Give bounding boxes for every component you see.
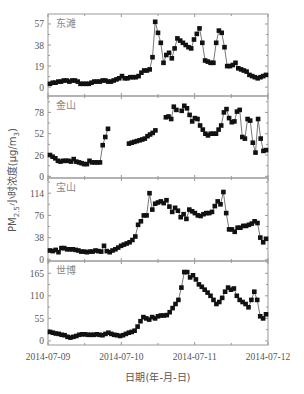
data-point-marker (176, 298, 181, 303)
x-axis-title: 日期(年-月-日) (125, 371, 190, 383)
data-point-marker (211, 61, 216, 66)
x-tick-label: 2014-07-11 (173, 352, 217, 362)
data-point-marker (252, 289, 257, 294)
y-tick-label: 0 (39, 172, 44, 182)
x-axis: 2014-07-092014-07-102014-07-112014-07-12 (26, 352, 291, 362)
data-point-marker (235, 294, 240, 299)
data-point-marker (176, 208, 181, 213)
data-point-marker (181, 212, 186, 217)
data-point-marker (161, 61, 166, 66)
data-point-marker (210, 210, 215, 215)
data-point-marker (159, 41, 164, 46)
data-point-marker (258, 136, 263, 141)
data-point-marker (264, 148, 269, 153)
y-tick-label: 55 (35, 314, 45, 324)
panel-3: 055110165世博 (30, 261, 269, 346)
data-point-marker (132, 328, 137, 333)
panel-2: 03876114宝山 (30, 178, 268, 265)
panel-1: 0265278金山 (35, 96, 269, 182)
y-tick-label: 52 (35, 129, 45, 139)
data-point-marker (184, 217, 189, 222)
y-tick-label: 0 (39, 336, 44, 346)
data-point-marker (232, 119, 237, 124)
data-point-marker (174, 108, 179, 113)
data-point-marker (153, 128, 158, 133)
data-point-marker (223, 289, 228, 294)
data-point-marker (194, 277, 199, 282)
data-point-marker (248, 118, 253, 123)
data-point-marker (222, 45, 227, 50)
y-tick-label: 0 (39, 255, 44, 265)
data-point-marker (249, 298, 254, 303)
data-point-marker (258, 235, 263, 240)
data-point-marker (153, 20, 158, 25)
panel-frame (48, 178, 268, 261)
panel-station-label: 世博 (56, 264, 76, 276)
data-point-marker (189, 46, 194, 51)
data-point-marker (216, 127, 221, 132)
data-point-marker (219, 123, 224, 128)
x-tick-label: 2014-07-09 (26, 352, 71, 362)
data-point-marker (167, 204, 172, 209)
y-tick-label: 76 (35, 211, 45, 221)
data-point-marker (138, 319, 143, 324)
panel-station-label: 金山 (56, 99, 76, 111)
data-point-marker (227, 116, 232, 121)
data-point-marker (150, 207, 155, 212)
data-point-marker (147, 67, 152, 72)
data-point-marker (217, 300, 222, 305)
data-point-marker (201, 127, 206, 132)
data-point-marker (103, 135, 108, 140)
y-tick-label: 38 (35, 233, 45, 243)
data-point-marker (214, 41, 219, 46)
data-point-marker (191, 273, 196, 278)
data-point-marker (170, 210, 175, 215)
data-point-marker (167, 51, 172, 56)
data-point-marker (233, 61, 238, 66)
data-point-marker (264, 312, 269, 317)
y-tick-label: 78 (35, 108, 45, 118)
series-line (50, 272, 266, 338)
pm25-chart: 0193857东滩0265278金山03876114宝山055110165世博 … (0, 0, 304, 394)
data-point-marker (164, 198, 169, 203)
chart-panels: 0193857东滩0265278金山03876114宝山055110165世博 (30, 14, 269, 346)
data-point-marker (99, 249, 104, 254)
data-point-marker (167, 310, 172, 315)
data-point-marker (192, 37, 197, 42)
data-point-marker (264, 237, 269, 242)
data-point-marker (195, 32, 200, 37)
data-point-marker (135, 324, 140, 329)
data-point-marker (169, 117, 174, 122)
panel-station-label: 宝山 (56, 181, 76, 193)
data-point-marker (187, 113, 192, 118)
data-point-marker (220, 296, 225, 301)
data-point-marker (100, 143, 105, 148)
data-point-marker (185, 270, 190, 275)
data-point-marker (224, 211, 229, 216)
data-point-marker (232, 286, 237, 291)
data-point-marker (243, 136, 248, 141)
panel-station-label: 东滩 (56, 17, 76, 29)
y-tick-label: 26 (35, 151, 45, 161)
y-tick-label: 38 (35, 41, 45, 51)
panel-frame (48, 96, 268, 178)
y-tick-label: 57 (35, 19, 45, 29)
data-point-marker (173, 302, 178, 307)
data-point-marker (211, 298, 216, 303)
data-point-marker (221, 190, 226, 195)
data-point-marker (256, 117, 261, 122)
data-point-marker (264, 73, 269, 78)
x-tick-label: 2014-07-12 (246, 352, 291, 362)
y-tick-label: 165 (30, 269, 45, 279)
data-point-marker (106, 127, 111, 132)
data-point-marker (218, 202, 223, 207)
data-point-marker (255, 221, 260, 226)
data-point-marker (197, 26, 202, 31)
data-point-marker (213, 204, 218, 209)
data-point-marker (98, 160, 103, 165)
data-point-marker (232, 230, 237, 235)
panel-0: 0193857东滩 (35, 14, 269, 96)
y-tick-label: 0 (39, 83, 44, 93)
data-point-marker (139, 219, 144, 224)
y-tick-label: 114 (30, 189, 44, 199)
